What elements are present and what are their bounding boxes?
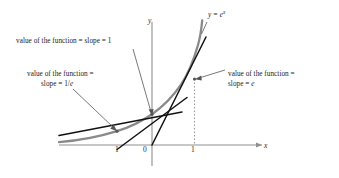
annotation-slope-e-line2-italic: e [251, 80, 254, 88]
annotation-slope-1-over-e-line2-italic: e [70, 80, 73, 88]
annotation-slope-e-line2-prefix: slope = [228, 80, 251, 88]
annotation-slope-1-over-e-line2-prefix: slope = 1/ [41, 80, 70, 88]
x-tick-label-zero: 0 [143, 145, 147, 154]
annotation-slope-1-over-e-line1: value of the function = [27, 70, 94, 78]
annotation-slope-e: value of the function = slope = e [228, 70, 295, 89]
x-axis-label: x [264, 141, 267, 150]
leader-line-slope-1 [133, 49, 151, 112]
curve-label-exponent: x [223, 9, 225, 15]
figure-exponential-tangents: value of the function = slope = 1 value … [0, 0, 339, 178]
annotation-slope-1: value of the function = slope = 1 [16, 37, 111, 47]
leader-line-slope-1-over-e [73, 89, 114, 128]
leader-slope-1 [133, 49, 154, 116]
curve-label-y-equals-e-to-the-x: y = ex [208, 11, 225, 21]
x-tick-label-one: 1 [191, 145, 195, 154]
curve-label-base: y = e [208, 11, 223, 19]
tangent-line-at-one [152, 37, 206, 145]
figure-canvas [0, 0, 339, 178]
annotation-slope-e-line1: value of the function = [228, 70, 295, 78]
leader-slope-e [195, 70, 225, 81]
annotation-slope-1-over-e: value of the function = slope = 1/e [27, 70, 94, 89]
leader-slope-1-over-e [73, 89, 117, 131]
leader-line-slope-e [199, 70, 225, 78]
y-axis-label: y [148, 16, 151, 25]
x-axis [59, 143, 262, 148]
x-axis-arrow [256, 143, 262, 148]
x-tick-label-negative-one: 1 [115, 145, 119, 154]
